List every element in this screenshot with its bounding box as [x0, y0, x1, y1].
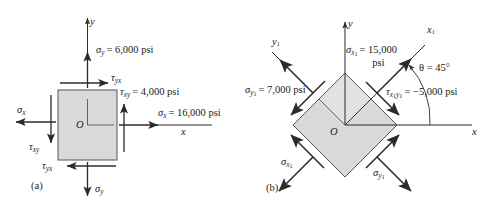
label-tau-x1y1-b: τx1y1= −5,000 psi [386, 86, 457, 100]
tau-xy-subscript: xy [33, 145, 39, 154]
tau-xy-value-a: = 4,000 psi [132, 86, 179, 97]
sigma-x-subscript: x [22, 108, 25, 117]
label-tau-yx-bottom-a: τyx [42, 160, 52, 173]
tau-yx-subscript: yx [46, 164, 52, 173]
label-sigma-y-bottom-a: σy [95, 183, 103, 196]
sigma-x1n-sub-1: 1 [289, 162, 292, 169]
sigma-x1-subscript: x1 [351, 48, 357, 57]
sigma-y-value-a: = 6,000 psi [106, 44, 153, 55]
sigma-x1-value-b: = 15,000 [360, 44, 397, 55]
sigma-y-subscript: y [100, 187, 103, 196]
panel-tag-b: (b) [266, 182, 278, 194]
panel-tag-a: (a) [31, 180, 43, 192]
sigma-x-subscript: x [163, 111, 166, 120]
theta-label-b: θ = 45° [419, 62, 450, 74]
origin-label-a: O [76, 119, 84, 131]
figure-vector-layer [0, 0, 491, 211]
tau-x1y1-value-b: = −5,000 psi [404, 86, 457, 97]
x1-subscript: 1 [432, 28, 435, 35]
label-tau-xy-right-a: τxy= 4,000 psi [120, 86, 179, 99]
tau-yx-subscript: yx [115, 76, 121, 85]
figure-stress-elements: y σy= 6,000 psi τyx τxy= 4,000 psi σx= 1… [0, 0, 491, 211]
label-sigma-y1-neg-b: σy1 [373, 167, 385, 181]
sigma-y1n-sub-1: 1 [381, 173, 384, 180]
sigma-x-value-a: = 16,000 psi [168, 107, 220, 118]
tau-x1y1-subscript: x1y1 [390, 90, 403, 99]
label-sigma-x1-b: σx1= 15,000 psi [346, 44, 397, 68]
sigma-y-subscript: y [101, 48, 104, 57]
axis-label-x-a: x [181, 126, 186, 138]
sigma-y1-sub-1: 1 [253, 90, 256, 97]
sigma-x1-neg-subscript: x1 [286, 160, 292, 169]
tau-xy-subscript: xy [124, 90, 130, 99]
origin-label-b: O [330, 126, 338, 138]
sigma-y1-neg-subscript: y1 [378, 171, 384, 180]
label-sigma-x-right-a: σx= 16,000 psi [158, 107, 221, 120]
sigma-x1-sub-1: 1 [354, 50, 357, 57]
label-sigma-x-left-a: σx [17, 104, 25, 117]
label-tau-xy-left-a: τxy [29, 141, 39, 154]
label-sigma-x1-neg-b: σx1 [281, 156, 293, 170]
sigma-x1-unit-b: psi [360, 57, 397, 69]
axis-label-y1-b: y1 [272, 36, 280, 48]
label-sigma-y-top-a: σy= 6,000 psi [96, 44, 154, 57]
label-sigma-y1-b: σy1= 7,000 psi [245, 84, 306, 98]
label-tau-yx-top-a: τyx [111, 72, 121, 85]
tau-sub-1b: 1 [399, 92, 402, 99]
y1-subscript: 1 [277, 40, 280, 47]
axis-label-y-b: y [348, 18, 353, 30]
axis-label-y-a: y [90, 16, 95, 28]
axis-label-x1-b: x1 [427, 24, 435, 36]
axis-label-x-b: x [472, 126, 477, 138]
sigma-y1-value-b: = 7,000 psi [259, 84, 306, 95]
sigma-y1-subscript: y1 [250, 88, 256, 97]
